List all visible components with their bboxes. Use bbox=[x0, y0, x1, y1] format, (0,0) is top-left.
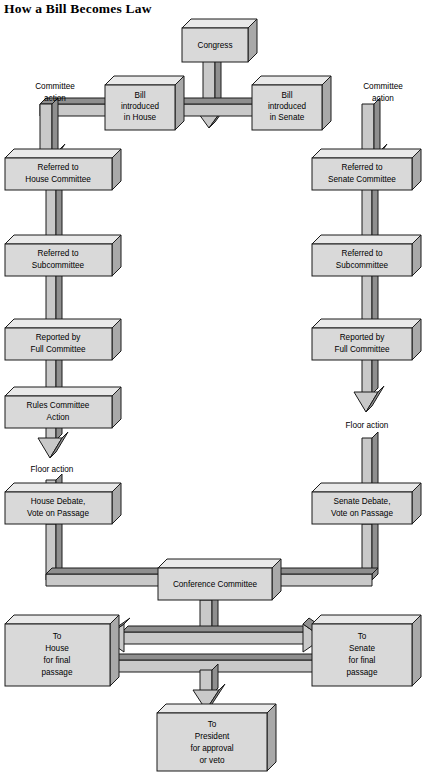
node-bill-introduced-in-house[interactable]: Bill introduced in House bbox=[105, 76, 184, 130]
node-label-line3: for final bbox=[349, 656, 376, 665]
node-referred-to-house-committee[interactable]: Referred to House Committee bbox=[5, 149, 121, 190]
node-label-line2: Vote on Passage bbox=[27, 509, 89, 518]
node-label-line1: Bill bbox=[282, 91, 293, 100]
node-bill-introduced-in-senate[interactable]: Bill introduced in Senate bbox=[252, 76, 331, 130]
node-label-line4: or veto bbox=[199, 756, 224, 765]
node-label-line1: Referred to bbox=[342, 249, 383, 258]
node-label-line1: Reported by bbox=[36, 333, 82, 342]
node-senate-debate-vote-on-passage[interactable]: Senate Debate, Vote on Passage bbox=[312, 483, 421, 524]
edge-house-debate-to-conference bbox=[46, 518, 171, 586]
node-congress[interactable]: Congress bbox=[182, 19, 257, 62]
node-house-reported-by-full-committee[interactable]: Reported by Full Committee bbox=[5, 319, 121, 360]
node-label-line1: To bbox=[53, 632, 62, 641]
annotation-floor-action-right: Floor action bbox=[346, 421, 389, 430]
node-label-line4: passage bbox=[347, 668, 378, 677]
node-label-line2: introduced bbox=[268, 102, 307, 111]
node-label-line3: in House bbox=[124, 113, 157, 122]
node-label-line1: Bill bbox=[135, 91, 146, 100]
node-label-line2: Vote on Passage bbox=[331, 509, 393, 518]
annotation-line1: Committee bbox=[35, 82, 75, 91]
annotation-line1: Floor action bbox=[346, 421, 389, 430]
node-label-line2: Full Committee bbox=[334, 345, 389, 354]
node-label-line3: for approval bbox=[190, 744, 233, 753]
node-label-line2: Subcommittee bbox=[32, 261, 85, 270]
node-label-line2: introduced bbox=[121, 102, 160, 111]
node-label-line2: House bbox=[45, 644, 69, 653]
node-conference-committee[interactable]: Conference Committee bbox=[158, 559, 281, 600]
node-label-line4: passage bbox=[42, 668, 73, 677]
node-label-line3: in Senate bbox=[270, 113, 305, 122]
edge-senate-debate-to-conference bbox=[266, 518, 378, 586]
node-label-line1: House Debate, bbox=[31, 497, 86, 506]
node-label-line1: Referred to bbox=[342, 163, 383, 172]
node-to-senate-for-final-passage[interactable]: To Senate for final passage bbox=[312, 615, 421, 686]
node-senate-referred-to-subcommittee[interactable]: Referred to Subcommittee bbox=[312, 235, 421, 276]
edge-chambers-to-president bbox=[108, 654, 324, 710]
annotation-line2: action bbox=[44, 94, 66, 103]
node-label-line2: Action bbox=[47, 413, 70, 422]
node-to-house-for-final-passage[interactable]: To House for final passage bbox=[5, 615, 119, 686]
annotation-committee-action-right: Committee action bbox=[363, 82, 403, 103]
edge-congress-to-bills bbox=[196, 54, 228, 128]
node-senate-reported-by-full-committee[interactable]: Reported by Full Committee bbox=[312, 319, 421, 360]
node-label-line1: Senate Debate, bbox=[334, 497, 391, 506]
node-label-line2: Subcommittee bbox=[336, 261, 389, 270]
node-label-line2: Full Committee bbox=[30, 345, 85, 354]
node-rules-committee-action[interactable]: Rules Committee Action bbox=[5, 387, 121, 428]
node-label-line1: To bbox=[358, 632, 367, 641]
node-label-line1: To bbox=[208, 720, 217, 729]
node-referred-to-senate-committee[interactable]: Referred to Senate Committee bbox=[312, 149, 421, 190]
node-house-referred-to-subcommittee[interactable]: Referred to Subcommittee bbox=[5, 235, 121, 276]
node-label-line1: Referred to bbox=[38, 163, 79, 172]
node-label-line2: Senate bbox=[349, 644, 375, 653]
node-label-line1: Referred to bbox=[38, 249, 79, 258]
node-label-line1: Rules Committee bbox=[27, 401, 90, 410]
flowchart-diagram: Congress Bill introduced in House Bill i… bbox=[0, 0, 427, 776]
annotation-floor-action-left: Floor action bbox=[31, 465, 74, 474]
node-label-line3: for final bbox=[44, 656, 71, 665]
annotation-line1: Floor action bbox=[31, 465, 74, 474]
node-label-line2: House Committee bbox=[25, 175, 91, 184]
node-label-line2: President bbox=[195, 732, 230, 741]
node-label-line1: Reported by bbox=[340, 333, 386, 342]
annotation-line2: action bbox=[372, 94, 394, 103]
node-label-line2: Senate Committee bbox=[328, 175, 396, 184]
node-house-debate-vote-on-passage[interactable]: House Debate, Vote on Passage bbox=[5, 483, 121, 524]
annotation-line1: Committee bbox=[363, 82, 403, 91]
node-to-president-for-approval-or-veto[interactable]: To President for approval or veto bbox=[157, 704, 276, 771]
node-label: Conference Committee bbox=[173, 580, 258, 589]
node-label: Congress bbox=[197, 41, 232, 50]
